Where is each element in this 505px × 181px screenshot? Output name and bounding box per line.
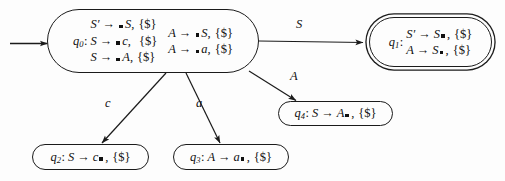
state-q4-column-1: S→A,{$} xyxy=(312,105,377,121)
state-q0-column-1: S′→S,{$} S→c,{$} S→A,{$} xyxy=(91,16,158,65)
item-dot xyxy=(116,58,119,61)
item-dot xyxy=(441,34,444,37)
state-q1-label: q1: xyxy=(389,35,403,50)
item-dot xyxy=(440,51,443,54)
item: S→c,{$} xyxy=(68,149,131,165)
item: S→A,{$} xyxy=(91,49,158,65)
edge-label-A: A xyxy=(290,69,298,84)
edge-label-a: a xyxy=(196,96,202,111)
edge-q0-q3 xyxy=(186,73,220,143)
item: A→S,{$} xyxy=(406,42,472,58)
edge-label-S: S xyxy=(296,17,302,32)
state-q4-label: q4: xyxy=(294,106,308,121)
edge-q0-q2 xyxy=(102,73,166,143)
state-q0[interactable]: q0: S′→S,{$} S→c,{$} S→A,{$} A→S,{$} A→a… xyxy=(47,9,259,73)
item: S′→S,{$} xyxy=(406,26,472,42)
state-q3[interactable]: q3: A→a,{$} xyxy=(173,144,289,170)
item-dot xyxy=(345,114,348,117)
item: S→A,{$} xyxy=(312,105,377,121)
state-q2[interactable]: q2: S→c,{$} xyxy=(32,144,149,170)
item: A→S,{$} xyxy=(168,25,233,41)
state-q3-column-1: A→a,{$} xyxy=(207,149,272,165)
item: A→a,{$} xyxy=(207,149,272,165)
item-dot xyxy=(196,33,199,36)
item-dot xyxy=(241,157,244,160)
item-dot xyxy=(99,157,102,160)
item-dot xyxy=(116,41,119,44)
state-q0-label: q0: xyxy=(73,34,87,49)
state-q1-column-1: S′→S,{$} A→S,{$} xyxy=(406,26,472,59)
state-q3-label: q3: xyxy=(190,150,204,165)
edge-q0-q4 xyxy=(249,71,296,101)
edge-q0-q1 xyxy=(259,41,363,43)
state-q4[interactable]: q4: S→A,{$} xyxy=(278,101,393,126)
item: S→c,{$} xyxy=(91,33,158,49)
state-q2-column-1: S→c,{$} xyxy=(68,149,131,165)
edge-label-c: c xyxy=(105,96,111,111)
state-q0-column-2: A→S,{$} A→a,{$} xyxy=(168,25,233,58)
automaton-diagram: q0: S′→S,{$} S→c,{$} S→A,{$} A→S,{$} A→a… xyxy=(0,0,505,181)
state-q2-label: q2: xyxy=(50,150,64,165)
item-dot xyxy=(119,25,122,28)
item: A→a,{$} xyxy=(168,41,233,57)
item-dot xyxy=(196,50,199,53)
state-q1[interactable]: q1: S′→S,{$} A→S,{$} xyxy=(369,17,492,67)
item: S′→S,{$} xyxy=(91,16,158,32)
